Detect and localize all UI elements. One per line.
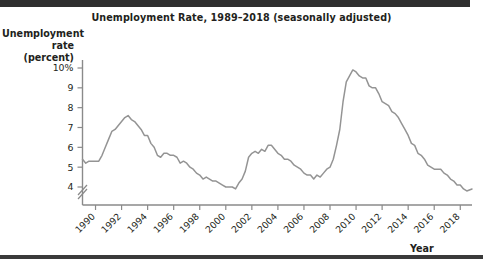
x-tick-label: 1998: [177, 211, 201, 235]
x-tick-label: 2016: [411, 211, 435, 235]
x-tick-label: 2004: [255, 211, 279, 235]
x-tick-label: 2014: [385, 211, 409, 235]
y-axis-ticks: 45678910%: [53, 62, 83, 192]
y-tick-label: 7: [68, 122, 74, 133]
x-tick-label: 2012: [359, 211, 383, 235]
y-tick-label: 4: [68, 181, 74, 192]
x-axis-ticks: 1990199219941996199820002002200420062008…: [73, 205, 462, 235]
x-axis-title: Year: [410, 243, 434, 254]
y-tick-label: 5: [68, 162, 74, 173]
series-line: [83, 70, 473, 191]
x-tick-label: 2018: [437, 211, 461, 235]
chart-figure: Unemployment Rate, 1989–2018 (seasonally…: [0, 0, 483, 265]
bottom-divider-rule: [0, 255, 483, 259]
x-tick-label: 1996: [151, 211, 175, 235]
x-tick-label: 1992: [99, 211, 123, 235]
y-tick-label: 9: [68, 82, 74, 93]
y-tick-label: 10%: [53, 62, 74, 73]
plot-area: 45678910% 199019921994199619982000200220…: [0, 0, 483, 265]
x-tick-label: 2002: [229, 211, 253, 235]
x-tick-label: 1990: [73, 211, 97, 235]
y-tick-label: 8: [68, 102, 74, 113]
x-tick-label: 1994: [125, 211, 149, 235]
x-tick-label: 2010: [333, 211, 357, 235]
axis-lines: [78, 60, 472, 205]
x-tick-label: 2008: [307, 211, 331, 235]
y-tick-label: 6: [68, 142, 74, 153]
x-tick-label: 2000: [203, 211, 227, 235]
x-tick-label: 2006: [281, 211, 305, 235]
data-series: [83, 70, 473, 191]
